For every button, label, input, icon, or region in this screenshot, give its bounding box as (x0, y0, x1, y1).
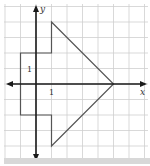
x-axis-label: x (140, 87, 145, 97)
y-axis-label: y (39, 4, 46, 14)
coordinate-plane: x y 1 1 (0, 0, 150, 166)
x-tick-label: 1 (49, 88, 54, 97)
y-tick-label: 1 (27, 65, 32, 74)
x-axis-arrow-left-icon (6, 81, 13, 87)
bottom-shadow-bar (4, 158, 150, 164)
grid-lines (4, 4, 148, 160)
coordinate-figure: x y 1 1 (0, 0, 150, 166)
axes (6, 5, 147, 161)
y-axis-arrow-up-icon (33, 5, 39, 12)
